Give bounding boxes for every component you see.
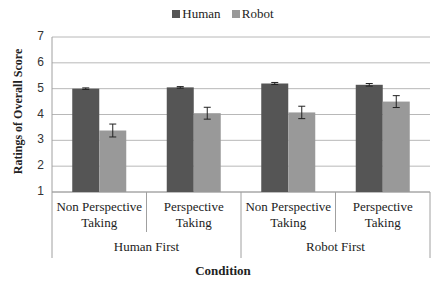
- bar-human: [356, 85, 383, 192]
- category-label: PerspectiveTaking: [147, 199, 242, 231]
- category-label: Non PerspectiveTaking: [52, 199, 147, 231]
- category-label-line: Taking: [336, 215, 431, 231]
- category-label-line: Perspective: [336, 199, 431, 215]
- category-label-line: Non Perspective: [241, 199, 336, 215]
- bar-robot: [99, 131, 126, 192]
- y-tick-label: 7: [30, 29, 44, 43]
- category-label-line: Taking: [147, 215, 242, 231]
- bar-chart: Human Robot Ratings of Overall Score 123…: [0, 0, 446, 289]
- bar-robot: [288, 112, 315, 192]
- y-tick-label: 2: [30, 158, 44, 172]
- category-label-line: Taking: [241, 215, 336, 231]
- y-tick-label: 5: [30, 81, 44, 95]
- x-axis-label: Condition: [0, 263, 446, 279]
- group-label: Human First: [52, 239, 241, 255]
- bar-human: [72, 89, 99, 192]
- y-tick-label: 4: [30, 107, 44, 121]
- category-label-line: Non Perspective: [52, 199, 147, 215]
- category-label-line: Perspective: [147, 199, 242, 215]
- category-label: PerspectiveTaking: [336, 199, 431, 231]
- category-label: Non PerspectiveTaking: [241, 199, 336, 231]
- group-label: Robot First: [241, 239, 430, 255]
- category-label-line: Taking: [52, 215, 147, 231]
- bar-human: [261, 84, 288, 193]
- y-tick-label: 6: [30, 55, 44, 69]
- bar-robot: [383, 102, 410, 192]
- bar-robot: [194, 113, 221, 192]
- bar-human: [167, 87, 194, 192]
- y-tick-label: 3: [30, 132, 44, 146]
- y-tick-label: 1: [30, 184, 44, 198]
